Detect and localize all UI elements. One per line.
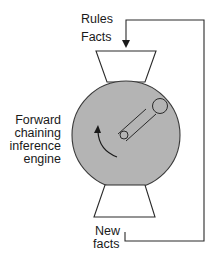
new-facts-label-line2: facts bbox=[93, 237, 119, 251]
rules-label: Rules bbox=[81, 12, 113, 26]
output-hopper bbox=[94, 185, 155, 217]
engine-label-line1: Forward bbox=[4, 113, 61, 127]
arrow-down-icon bbox=[122, 40, 130, 48]
engine-label-line4: engine bbox=[4, 152, 61, 166]
new-facts-label-line1: New bbox=[95, 224, 120, 238]
engine-label-line2: chaining bbox=[4, 126, 61, 140]
input-hopper bbox=[96, 51, 156, 82]
engine-label-line3: inference bbox=[4, 139, 61, 153]
facts-label: Facts bbox=[81, 30, 112, 44]
